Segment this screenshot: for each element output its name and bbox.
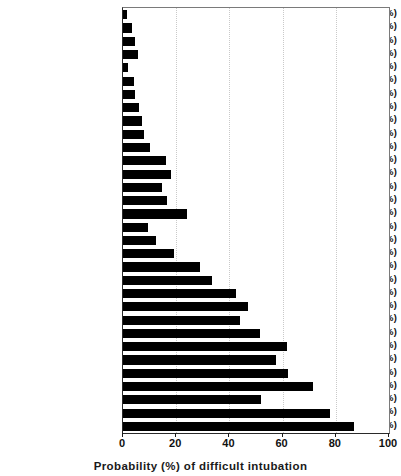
bar-slot xyxy=(123,167,389,180)
bar xyxy=(123,116,142,125)
bar xyxy=(123,302,248,311)
bar-slot xyxy=(123,406,389,419)
bar xyxy=(123,143,150,152)
x-tick-label: 80 xyxy=(329,437,341,449)
bar xyxy=(123,170,171,179)
bar-slot xyxy=(123,88,389,101)
bar-slot xyxy=(123,74,389,87)
bar xyxy=(123,395,261,404)
bar-slot xyxy=(123,340,389,353)
bar xyxy=(123,409,330,418)
bar xyxy=(123,262,200,271)
bar-slot xyxy=(123,141,389,154)
x-tick-label: 20 xyxy=(169,437,181,449)
bar-slot xyxy=(123,367,389,380)
bar xyxy=(123,209,187,218)
bar-slot xyxy=(123,234,389,247)
x-tick-label: 40 xyxy=(222,437,234,449)
x-axis-tick-labels: 020406080100 xyxy=(0,437,401,451)
bar xyxy=(123,23,132,32)
bar-slot xyxy=(123,393,389,406)
x-tick-label: 100 xyxy=(379,437,397,449)
plot-area xyxy=(122,7,390,434)
bar-slot xyxy=(123,274,389,287)
bar xyxy=(123,130,144,139)
bar-slot xyxy=(123,101,389,114)
bar-slot xyxy=(123,221,389,234)
bar-slot xyxy=(123,313,389,326)
x-tick-label: 0 xyxy=(119,437,125,449)
bar-slot xyxy=(123,35,389,48)
bar-slot xyxy=(123,353,389,366)
bar xyxy=(123,382,313,391)
bar-slot xyxy=(123,8,389,21)
bar-series xyxy=(123,8,389,433)
bar xyxy=(123,63,128,72)
bar xyxy=(123,249,174,258)
bar xyxy=(123,50,138,59)
bar xyxy=(123,316,240,325)
bar xyxy=(123,223,148,232)
bar-slot xyxy=(123,154,389,167)
bar xyxy=(123,77,134,86)
bar-slot xyxy=(123,247,389,260)
bar xyxy=(123,355,276,364)
bar xyxy=(123,10,127,19)
difficult-intubation-bar-chart: Class I(29.3%)Class II(34.9%)Class III(1… xyxy=(0,0,401,476)
x-tick-label: 60 xyxy=(275,437,287,449)
bar xyxy=(123,156,166,165)
bar-slot xyxy=(123,300,389,313)
bar xyxy=(123,342,287,351)
bar-slot xyxy=(123,380,389,393)
bar-slot xyxy=(123,181,389,194)
bar xyxy=(123,90,135,99)
bar-slot xyxy=(123,21,389,34)
bar-slot xyxy=(123,61,389,74)
bar-slot xyxy=(123,260,389,273)
bar xyxy=(123,183,162,192)
bar xyxy=(123,289,236,298)
bar xyxy=(123,329,260,338)
bar-slot xyxy=(123,48,389,61)
bar xyxy=(123,103,139,112)
bar-slot xyxy=(123,327,389,340)
bar-slot xyxy=(123,128,389,141)
x-axis-title: Probability (%) of difficult intubation xyxy=(0,460,401,472)
bar-slot xyxy=(123,114,389,127)
bar-slot xyxy=(123,287,389,300)
bar xyxy=(123,196,167,205)
bar-slot xyxy=(123,420,389,433)
bar xyxy=(123,422,354,431)
bar-slot xyxy=(123,194,389,207)
bar xyxy=(123,37,135,46)
bar-slot xyxy=(123,207,389,220)
bar xyxy=(123,236,156,245)
bar xyxy=(123,369,288,378)
bar xyxy=(123,276,212,285)
